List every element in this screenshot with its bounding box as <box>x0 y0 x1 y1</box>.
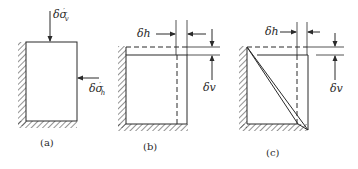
panel-c <box>239 22 344 131</box>
caption-c: (c) <box>266 148 279 158</box>
dh-label: δh <box>137 28 151 39</box>
dv-label: δv <box>330 83 343 94</box>
wall-bottom-hatch <box>18 121 77 128</box>
slip-band-lower <box>247 47 298 124</box>
horizontal-stress-label: δσ′h <box>89 82 105 97</box>
label-subscript: h <box>101 89 106 97</box>
deformed-element <box>126 55 187 124</box>
panel-a <box>18 11 99 128</box>
wall-left-hatch <box>18 42 26 126</box>
wall-bottom-hatch <box>118 124 188 131</box>
label-subscript: v <box>65 15 69 23</box>
label-prime: ′ <box>99 81 101 89</box>
dv-label: δv <box>203 82 216 93</box>
slip-band-upper <box>247 47 308 130</box>
label-prime: ′ <box>63 7 65 15</box>
soil-element <box>26 42 77 121</box>
caption-b: (b) <box>143 142 157 152</box>
wall-left-hatch <box>239 46 247 128</box>
wall-left-hatch <box>118 46 126 128</box>
vertical-stress-label: δσ′v <box>53 8 69 23</box>
panel-b <box>118 20 220 131</box>
dh-label: δh <box>265 26 279 37</box>
caption-a: (a) <box>40 138 54 148</box>
wall-bottom-hatch <box>239 124 307 131</box>
